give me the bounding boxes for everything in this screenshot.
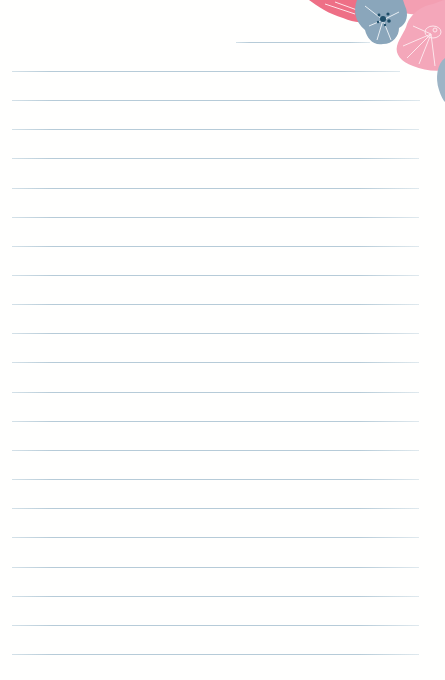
ruled-line <box>12 479 419 480</box>
ruled-line <box>12 450 419 451</box>
stationery-page <box>0 0 445 680</box>
ruled-line <box>12 246 419 247</box>
ruled-line <box>12 275 419 276</box>
ruled-line <box>12 421 419 422</box>
ruled-line <box>12 596 419 597</box>
ruled-line <box>12 217 419 218</box>
ruled-line <box>12 362 419 363</box>
ruled-line <box>12 129 419 130</box>
ruled-line <box>12 537 419 538</box>
ruled-line <box>12 188 419 189</box>
floral-corner-icon <box>295 0 445 110</box>
ruled-line <box>12 625 419 626</box>
ruled-line <box>12 508 419 509</box>
ruled-line <box>12 654 419 655</box>
ruled-line <box>12 304 419 305</box>
ruled-line <box>12 158 419 159</box>
ruled-line <box>12 567 419 568</box>
ruled-line <box>12 333 419 334</box>
ruled-line <box>12 392 419 393</box>
